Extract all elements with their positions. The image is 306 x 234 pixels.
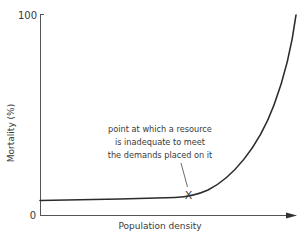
annotation-pointer — [181, 163, 188, 187]
y-tick-100: 100 — [18, 10, 37, 21]
annotation-marker-x-icon: X — [185, 189, 193, 202]
x-axis-title: Population density — [118, 221, 202, 231]
mortality-curve — [40, 15, 296, 201]
annotation-line-1: point at which a resource — [108, 124, 212, 134]
y-axis-title: Mortality (%) — [6, 104, 16, 162]
annotation-line-3: the demands placed on it — [108, 150, 213, 160]
mortality-chart: 100 0 Mortality (%) Population density p… — [0, 0, 306, 234]
annotation-line-2: is inadequate to meet — [115, 137, 206, 147]
x-axis-arrow-icon — [286, 213, 297, 219]
y-tick-0: 0 — [30, 210, 36, 221]
